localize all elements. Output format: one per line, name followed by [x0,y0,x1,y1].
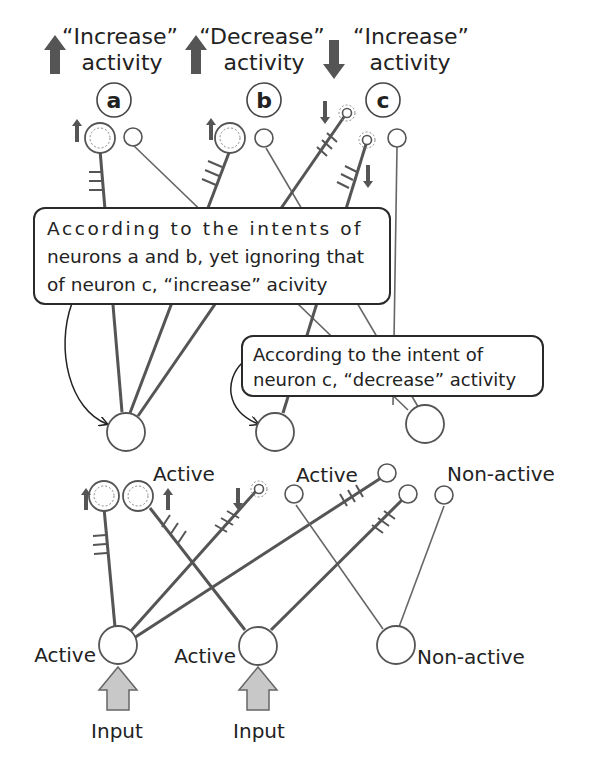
synapse-b-weak [255,129,273,147]
callout-c-line-1: According to the intent of [253,342,532,367]
middle-neuron-2 [256,413,294,451]
middle-neuron-2-state: Active [296,463,358,487]
synapse-a-strong [85,123,115,153]
middle-neuron-3-state: Non-active [447,462,555,486]
intent-c-line2: activity [369,50,450,75]
up-arrow-icon [72,119,82,142]
callout-ab-intent: According to the intents of neurons a an… [33,207,391,305]
bottom-neuron-2-state: Active [174,644,236,668]
synapse-c-weak [388,129,406,147]
input-arrow-icon [239,667,277,710]
callout-c-line-2: neuron c, “decrease” activity [253,367,532,392]
synapse-b-strong [215,123,245,153]
middle-neuron-1 [107,413,145,451]
synapse-m3-weak [435,486,453,504]
svg-text:a: a [107,88,122,113]
middle-neuron-3 [406,405,444,443]
bottom-to-middle-connections [104,478,444,638]
synapse-m2-strong [378,464,396,482]
intent-a-line1: “Increase” [62,24,178,49]
synapse-m1-strong-b [123,481,153,511]
down-arrow-icon [320,101,330,124]
intent-a-line2: activity [81,50,162,75]
bottom-neuron-3-state: Non-active [417,645,525,669]
down-arrow-icon [323,40,345,79]
bottom-neuron-1 [99,626,137,664]
bottom-neuron-1-state: Active [34,643,96,667]
input-arrow-icon [99,667,137,710]
neuron-c-label: c [366,83,400,117]
svg-text:b: b [256,88,272,113]
up-arrow-icon [163,488,173,510]
neuron-a-label: a [97,83,131,117]
synapse-m1-strong-a [89,481,119,511]
bottom-neuron-3 [377,626,415,664]
callout-1-pointer [65,303,107,424]
callout-ab-line-1: According to the intents of [47,215,377,243]
callout-c-intent: According to the intent of neuron c, “de… [241,335,544,397]
intent-c-line1: “Increase” [353,24,469,49]
svg-text:c: c [376,88,389,113]
callout-ab-line-3: of neuron c, “increase” acivity [47,271,377,299]
intent-b-line2: activity [223,50,304,75]
bottom-neuron-2 [239,627,277,665]
neuron-b-label: b [247,83,281,117]
intent-b-line1: “Decrease” [199,24,324,49]
callout-ab-line-2: neurons a and b, yet ignoring that [47,243,377,271]
down-arrow-icon [363,165,373,188]
synapse-m2-weak [285,485,303,503]
synapse-a-weak [124,128,142,146]
input-label-1: Input [91,719,143,743]
middle-neuron-1-state: Active [153,462,215,486]
input-label-2: Input [233,719,285,743]
synapse-m3-strong [399,485,417,503]
